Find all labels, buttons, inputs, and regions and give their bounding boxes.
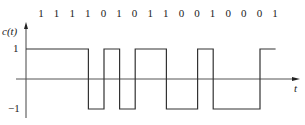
y-axis-arrow-icon (24, 22, 28, 29)
bit-labels: 1111010110010001 (38, 7, 278, 19)
bit-label: 0 (257, 7, 263, 19)
bit-label: 1 (54, 7, 60, 19)
bit-label: 1 (69, 7, 75, 19)
bit-label: 0 (179, 7, 185, 19)
bit-label: 1 (116, 7, 122, 19)
x-axis-label: t (294, 82, 297, 94)
y-axis-label: c(t) (2, 25, 17, 37)
bit-label: 0 (194, 7, 200, 19)
waveform-diagram: 1111010110010001 c(t) 1 −1 t (0, 0, 305, 125)
ytick-low: −1 (8, 102, 20, 114)
waveform-svg: 1111010110010001 (0, 0, 305, 125)
bit-label: 1 (85, 7, 91, 19)
bit-label: 1 (147, 7, 153, 19)
bit-label: 0 (225, 7, 231, 19)
bit-label: 1 (272, 7, 278, 19)
bit-label: 1 (38, 7, 44, 19)
x-axis-arrow-icon (292, 77, 300, 81)
ytick-high: 1 (13, 42, 19, 54)
bit-label: 0 (132, 7, 138, 19)
bit-label: 0 (241, 7, 247, 19)
bit-label: 1 (210, 7, 216, 19)
bit-label: 1 (163, 7, 169, 19)
bit-label: 0 (101, 7, 107, 19)
